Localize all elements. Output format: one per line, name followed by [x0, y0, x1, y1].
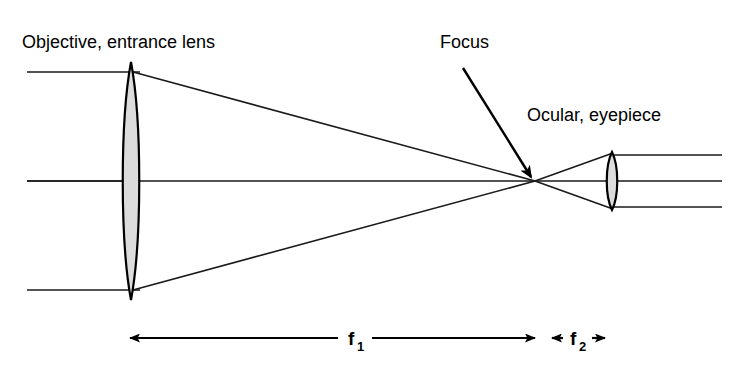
f1-label: f: [348, 328, 355, 349]
objective-lens: [123, 62, 140, 300]
f2-label-subscript: 2: [579, 339, 586, 354]
f2-label: f: [570, 328, 577, 349]
focus-pointer-arrow: [463, 68, 531, 177]
ocular-label: Ocular, eyepiece: [527, 105, 661, 125]
f1-dimension: f 1: [130, 328, 535, 354]
objective-label: Objective, entrance lens: [22, 32, 215, 52]
converging-ray-bottom: [133, 181, 535, 290]
focus-label: Focus: [440, 32, 489, 52]
diverging-ray-top: [535, 153, 613, 181]
ocular-lens: [607, 152, 618, 210]
diverging-ray-bottom: [535, 181, 613, 209]
f1-label-subscript: 1: [357, 339, 364, 354]
f2-dimension: f 2: [552, 328, 605, 354]
optics-diagram-canvas: Objective, entrance lens Focus Ocular, e…: [0, 0, 733, 367]
ray-diagram-svg: Objective, entrance lens Focus Ocular, e…: [0, 0, 733, 367]
